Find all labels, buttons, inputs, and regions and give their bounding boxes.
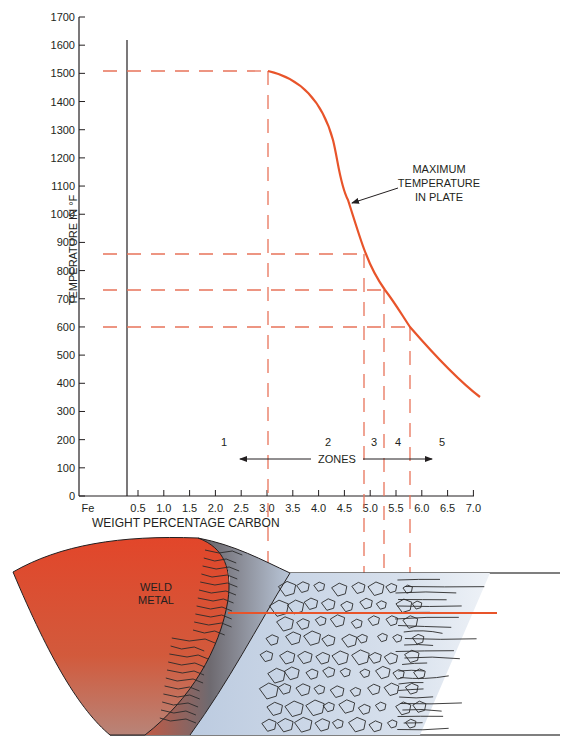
y-tick-label: 400 (57, 377, 75, 389)
x-tick-label: 5.5 (388, 502, 403, 514)
curve-label-line2: TEMPERATURE (398, 177, 480, 189)
max-temperature-curve (268, 71, 480, 397)
x-tick-label: 6.5 (440, 502, 455, 514)
y-tick-label: 1200 (51, 152, 75, 164)
y-tick-label: 1400 (51, 96, 75, 108)
x-tick-label: 6.0 (414, 502, 429, 514)
x-tick-label: 0.5 (130, 502, 145, 514)
y-tick-label: 500 (57, 349, 75, 361)
x-tick-label: 1.5 (182, 502, 197, 514)
y-tick-label: 1100 (51, 180, 75, 192)
x-axis: Fe0.51.01.52.02.53.03.54.04.55.05.56.06.… (79, 490, 481, 514)
x-axis-ticks: Fe0.51.01.52.02.53.03.54.04.55.05.56.06.… (82, 490, 481, 514)
weld-cross-section: WELD METAL (13, 537, 560, 735)
y-tick-label: 100 (57, 462, 75, 474)
y-tick-label: 1700 (51, 11, 75, 23)
y-tick-label: 1500 (51, 67, 75, 79)
y-tick-label: 200 (57, 434, 75, 446)
zone-3-label: 3 (371, 436, 377, 448)
x-tick-label: 3.5 (285, 502, 300, 514)
y-tick-label: 0 (69, 490, 75, 502)
y-tick-label: 300 (57, 405, 75, 417)
y-axis-title: TEMPERATURE IN °F (67, 194, 79, 305)
y-tick-label: 1300 (51, 124, 75, 136)
x-tick-label: 5.0 (363, 502, 378, 514)
zone-5-label: 5 (439, 436, 445, 448)
curve-label-line3: IN PLATE (415, 191, 463, 203)
y-tick-label: 1600 (51, 39, 75, 51)
weld-temperature-figure: 0100200300400500600700800900100011001200… (0, 0, 568, 751)
x-tick-label: 1.0 (156, 502, 171, 514)
weld-label-line2: METAL (138, 594, 174, 606)
zones-label: ZONES (318, 453, 356, 465)
curve-label-line1: MAXIMUM (412, 163, 465, 175)
weld-label-line1: WELD (140, 581, 172, 593)
zone-1-label: 1 (221, 436, 227, 448)
zone-4-label: 4 (395, 436, 401, 448)
x-tick-label: Fe (82, 502, 95, 514)
y-tick-label: 600 (57, 321, 75, 333)
x-tick-label: 7.0 (466, 502, 481, 514)
curve-annotation: MAXIMUM TEMPERATURE IN PLATE (352, 163, 480, 203)
x-axis-title: WEIGHT PERCENTAGE CARBON (92, 516, 280, 530)
x-tick-label: 4.0 (311, 502, 326, 514)
zone-2-label: 2 (325, 436, 331, 448)
x-tick-label: 3.0 (259, 502, 274, 514)
x-tick-label: 2.0 (208, 502, 223, 514)
zones-annotation: 1 2 3 4 5 ZONES (221, 436, 445, 465)
x-tick-label: 2.5 (234, 502, 249, 514)
x-tick-label: 4.5 (337, 502, 352, 514)
